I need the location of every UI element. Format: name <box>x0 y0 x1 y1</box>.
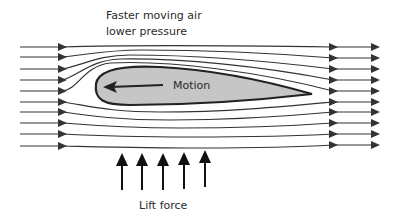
arrowhead-icon <box>58 43 67 51</box>
lift-arrow-icon <box>199 150 211 187</box>
arrowhead-icon <box>329 65 338 73</box>
arrowhead-icon <box>58 87 67 95</box>
arrowhead-icon <box>371 65 380 73</box>
arrowhead-icon <box>371 119 380 127</box>
arrowhead-icon <box>371 130 380 138</box>
lift-force-label: Lift force <box>139 199 187 212</box>
arrowhead-icon <box>329 76 338 84</box>
arrowhead-icon <box>329 119 338 127</box>
streamline-1 <box>20 46 378 48</box>
pressure-label-line-2: lower pressure <box>106 25 187 38</box>
streamline-7 <box>20 112 378 120</box>
lift-arrow-icon <box>116 153 128 190</box>
arrowhead-icon <box>329 87 338 95</box>
lift-arrow-icon <box>178 152 190 189</box>
arrowhead-icon <box>371 87 380 95</box>
arrowhead-icon <box>371 43 380 51</box>
arrowhead-icon <box>371 98 380 106</box>
arrowhead-icon <box>371 141 380 149</box>
streamline-9 <box>20 134 378 137</box>
arrowhead-icon <box>371 108 380 116</box>
streamline-10 <box>20 145 378 148</box>
arrowhead-icon <box>58 98 67 106</box>
arrowhead-icon <box>58 130 67 138</box>
arrowhead-icon <box>329 54 338 62</box>
arrowhead-icon <box>58 142 67 150</box>
arrowhead-icon <box>329 141 338 149</box>
arrowhead-icon <box>58 108 67 116</box>
arrowhead-icon <box>58 119 67 127</box>
lift-arrows <box>116 150 211 190</box>
pressure-label-line-1: Faster moving air <box>106 9 202 22</box>
arrowhead-icon <box>371 54 380 62</box>
airfoil-lift-diagram: Faster moving air lower pressure Motion … <box>0 0 400 218</box>
arrowhead-icon <box>329 108 338 116</box>
lift-arrow-icon <box>136 153 148 190</box>
arrowhead-icon <box>58 76 67 84</box>
arrowhead-icon <box>371 76 380 84</box>
diagram-canvas <box>0 0 400 218</box>
arrowhead-icon <box>329 130 338 138</box>
arrowhead-icon <box>329 98 338 106</box>
arrowhead-icon <box>58 53 67 61</box>
arrowhead-icon <box>58 65 67 73</box>
motion-label: Motion <box>173 79 210 92</box>
lift-arrow-icon <box>157 153 169 190</box>
streamline-8 <box>20 123 378 128</box>
arrowhead-icon <box>329 43 338 51</box>
